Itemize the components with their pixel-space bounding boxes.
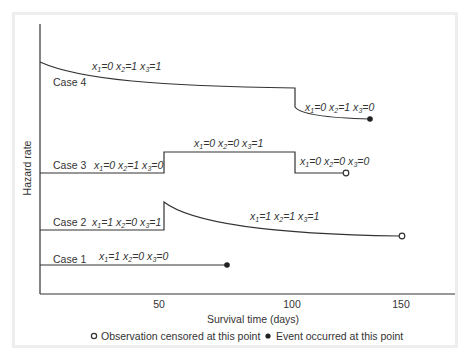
- x-tick-100: 100: [283, 298, 301, 310]
- case2-label: Case 2: [53, 216, 86, 228]
- x-tick-50: 50: [153, 298, 165, 310]
- case4-covariates-b: x1=0 x2=1 x3=0: [304, 101, 374, 114]
- case3-covariates-a: x1=0 x2=1 x3=0: [93, 159, 163, 172]
- case1-label: Case 1: [53, 253, 86, 265]
- case3-covariates-b: x1=0 x2=0 x3=1: [193, 137, 263, 150]
- event-marker: [367, 116, 373, 122]
- case3-label: Case 3: [53, 159, 86, 171]
- legend-open-circle-icon: [91, 333, 96, 338]
- case1-covariates-a: x1=1 x2=0 x3=0: [98, 250, 168, 263]
- legend-event-label: Event occurred at this point: [276, 330, 403, 342]
- event-marker: [224, 262, 230, 268]
- hazard-chart: Hazard rate 50 100 150 Survival time (da…: [0, 0, 476, 360]
- case2-covariates-a: x1=1 x2=0 x3=1: [91, 216, 161, 229]
- case4-covariates-a: x1=0 x2=1 x3=1: [91, 60, 161, 73]
- legend-censored-label: Observation censored at this point: [101, 330, 260, 342]
- x-tick-150: 150: [392, 298, 410, 310]
- x-axis-label: Survival time (days): [207, 313, 299, 325]
- case3-covariates-c: x1=0 x2=0 x3=0: [299, 155, 369, 168]
- case2-covariates-b: x1=1 x2=1 x3=1: [249, 210, 319, 223]
- legend-filled-circle-icon: [265, 333, 270, 338]
- censored-marker: [399, 233, 405, 239]
- censored-marker: [343, 170, 349, 176]
- y-axis-label: Hazard rate: [21, 140, 33, 195]
- case4-label: Case 4: [53, 76, 86, 88]
